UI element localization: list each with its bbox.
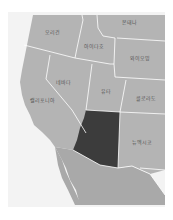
- label-utah: 유타: [101, 87, 111, 94]
- label-nevada: 네바다: [56, 78, 71, 85]
- map-canvas: [0, 0, 173, 220]
- label-montana: 몬태나: [122, 18, 137, 25]
- label-new-mexico: 뉴멕시코: [132, 138, 152, 145]
- label-oregon: 오리건: [45, 28, 60, 35]
- label-california: 캘리포니아: [30, 96, 55, 103]
- label-idaho: 아이다호: [84, 42, 104, 49]
- label-wyoming: 와이오밍: [130, 54, 150, 61]
- label-colorado: 콜로라도: [136, 94, 156, 101]
